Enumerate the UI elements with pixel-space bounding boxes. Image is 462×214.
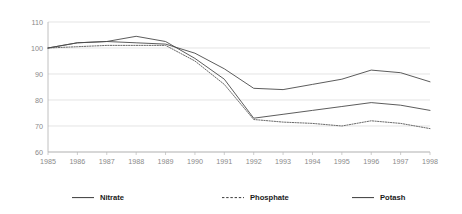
legend-label-phosphate: Phosphate [250, 193, 289, 202]
chart-background [0, 0, 462, 214]
line-chart: 60708090100110 1985198619871988198919901… [0, 0, 462, 214]
y-tick-label-110: 110 [32, 18, 43, 27]
x-tick-label-1988: 1988 [128, 157, 144, 166]
x-tick-label-1986: 1986 [69, 157, 85, 166]
x-tick-label-1990: 1990 [187, 157, 203, 166]
y-tick-label-90: 90 [35, 70, 43, 79]
y-tick-label-80: 80 [35, 96, 43, 105]
x-tick-label-1987: 1987 [99, 157, 115, 166]
legend-label-nitrate: Nitrate [100, 193, 124, 202]
y-tick-label-70: 70 [35, 122, 43, 131]
x-tick-label-1995: 1995 [334, 157, 350, 166]
x-tick-label-1996: 1996 [363, 157, 379, 166]
x-tick-label-1993: 1993 [275, 157, 291, 166]
x-tick-label-1985: 1985 [40, 157, 56, 166]
x-tick-label-1994: 1994 [304, 157, 320, 166]
x-tick-label-1992: 1992 [246, 157, 262, 166]
x-tick-label-1989: 1989 [158, 157, 174, 166]
y-tick-label-60: 60 [35, 148, 43, 157]
chart-canvas: 60708090100110 1985198619871988198919901… [0, 0, 462, 214]
x-tick-label-1991: 1991 [216, 157, 232, 166]
legend-label-potash: Potash [380, 193, 406, 202]
x-tick-label-1998: 1998 [422, 157, 438, 166]
y-tick-label-100: 100 [31, 44, 43, 53]
x-tick-label-1997: 1997 [393, 157, 409, 166]
